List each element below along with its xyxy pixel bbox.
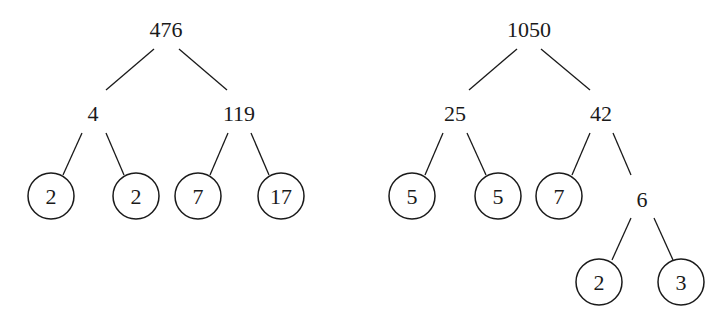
tree1-node-left: 4	[88, 101, 99, 126]
tree2-edges	[425, 49, 673, 260]
tree2-leaf: 5	[493, 184, 504, 209]
tree2-leaf: 3	[676, 270, 687, 295]
tree2-node-left: 25	[444, 101, 466, 126]
tree2-root: 1050	[507, 17, 551, 42]
tree2-node-right: 42	[590, 101, 612, 126]
tree2-leaf: 5	[407, 184, 418, 209]
tree1-leaf: 17	[270, 184, 292, 209]
tree2-leaf: 7	[554, 184, 565, 209]
tree2-node-6: 6	[637, 187, 648, 212]
tree1: 476 4 119 2 2 7 17	[28, 17, 304, 219]
factor-tree-diagram: 476 4 119 2 2 7 17 1050 25 42 5 5 7 6	[0, 0, 727, 323]
tree1-leaf: 7	[193, 184, 204, 209]
tree2: 1050 25 42 5 5 7 6 2 3	[389, 17, 704, 305]
tree1-root: 476	[150, 17, 183, 42]
tree1-leaf: 2	[46, 184, 57, 209]
tree2-leaf: 2	[594, 270, 605, 295]
tree1-leaf: 2	[131, 184, 142, 209]
tree1-node-right: 119	[223, 101, 255, 126]
